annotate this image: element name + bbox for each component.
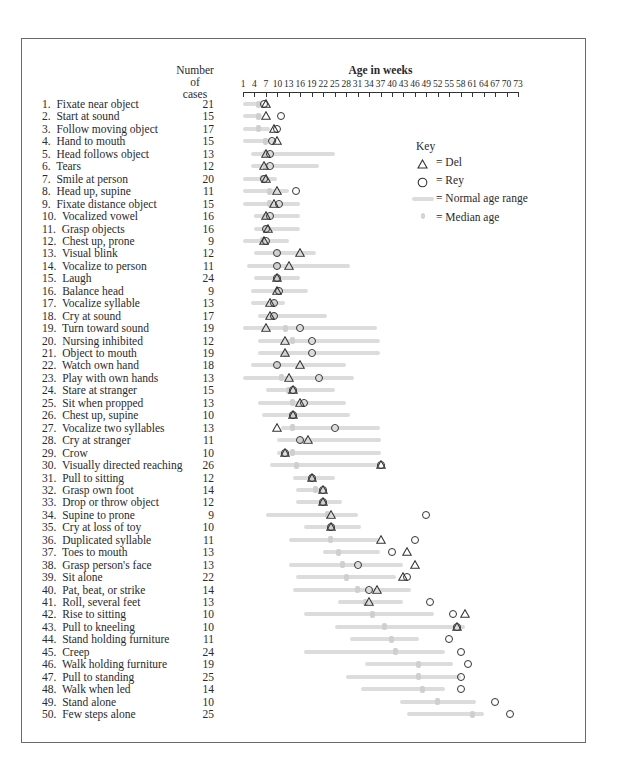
del-triangle-marker: [261, 99, 271, 108]
row-cases: 17: [178, 310, 214, 322]
x-tick: [381, 92, 382, 97]
row-cases: 19: [178, 347, 214, 359]
del-triangle-marker: [410, 560, 420, 569]
x-tick: [484, 92, 485, 97]
median-age-marker: [420, 686, 425, 693]
x-tick: [415, 92, 416, 97]
x-tick: [438, 92, 439, 97]
x-tick-label: 13: [284, 79, 294, 89]
row-cases: 15: [178, 110, 214, 122]
x-tick-label: 40: [387, 79, 397, 89]
x-tick: [277, 92, 278, 97]
del-triangle-marker: [284, 261, 294, 270]
row-label: 30. Visually directed reaching: [42, 459, 183, 471]
row-label: 31. Pull to sitting: [42, 472, 124, 484]
row-label: 4. Hand to mouth: [42, 135, 125, 147]
row-cases: 12: [178, 472, 214, 484]
x-tick: [495, 92, 496, 97]
median-age-marker: [389, 636, 394, 643]
circle-icon: [417, 177, 428, 188]
row-cases: 10: [178, 521, 214, 533]
row-cases: 13: [178, 422, 214, 434]
del-triangle-marker: [402, 547, 412, 556]
row-cases: 11: [178, 633, 214, 645]
row-cases: 25: [178, 671, 214, 683]
x-tick: [335, 92, 336, 97]
row-label: 8. Head up, supine: [42, 185, 131, 197]
x-tick-label: 37: [376, 79, 386, 89]
del-triangle-marker: [295, 398, 305, 407]
row-label: 23. Play with own hands: [42, 372, 158, 384]
x-tick: [392, 92, 393, 97]
del-triangle-marker: [272, 286, 282, 295]
del-triangle-marker: [326, 522, 336, 531]
median-age-marker: [344, 574, 349, 581]
normal-age-range-bar: [350, 637, 419, 641]
row-label: 33. Drop or throw object: [42, 496, 159, 508]
row-cases: 13: [178, 372, 214, 384]
x-tick-label: 22: [318, 79, 328, 89]
median-age-marker: [290, 337, 295, 344]
del-triangle-marker: [318, 485, 328, 494]
del-triangle-marker: [263, 224, 273, 233]
x-tick: [507, 92, 508, 97]
del-triangle-marker: [269, 124, 279, 133]
row-label: 40. Pat, beat, or strike: [42, 584, 145, 596]
normal-age-range-bar: [270, 463, 381, 467]
row-cases: 21: [178, 98, 214, 110]
row-label: 37. Toes to mouth: [42, 546, 128, 558]
x-tick: [312, 92, 313, 97]
median-age-marker: [336, 549, 341, 556]
x-tick-label: 34: [364, 79, 374, 89]
row-label: 38. Grasp person's face: [42, 559, 152, 571]
median-age-marker: [256, 125, 261, 132]
normal-age-range-bar: [335, 625, 465, 629]
row-label: 42. Rise to sitting: [42, 608, 126, 620]
row-cases: 16: [178, 223, 214, 235]
normal-age-range-bar: [304, 650, 445, 654]
row-cases: 11: [178, 185, 214, 197]
x-tick: [289, 92, 290, 97]
row-label: 14. Vocalize to person: [42, 260, 147, 272]
row-label: 15. Laugh: [42, 272, 92, 284]
x-tick: [358, 92, 359, 97]
row-cases: 24: [178, 646, 214, 658]
del-triangle-marker: [280, 348, 290, 357]
x-tick-label: 1: [241, 79, 246, 89]
row-label: 47. Pull to standing: [42, 671, 134, 683]
row-cases: 13: [178, 397, 214, 409]
rey-circle-marker: [411, 536, 419, 544]
row-label: 48. Walk when led: [42, 683, 131, 695]
row-cases: 10: [178, 621, 214, 633]
row-label: 5. Head follows object: [42, 148, 149, 160]
del-triangle-marker: [259, 161, 269, 170]
row-label: 25. Sit when propped: [42, 397, 143, 409]
del-triangle-marker: [272, 136, 282, 145]
normal-age-range-bar: [289, 563, 404, 567]
del-triangle-marker: [295, 248, 305, 257]
normal-age-range-bar: [277, 438, 380, 442]
x-axis-tick-labels: 1471013161922252831343740434649525558616…: [0, 79, 617, 91]
median-age-marker: [290, 424, 295, 431]
rey-circle-marker: [308, 337, 316, 345]
del-triangle-marker: [272, 423, 282, 432]
del-triangle-marker: [259, 236, 269, 245]
x-tick: [323, 92, 324, 97]
median-age-marker: [370, 611, 375, 618]
x-tick-label: 61: [467, 79, 477, 89]
row-label: 27. Vocalize two syllables: [42, 422, 165, 434]
range-bar-icon: [412, 197, 434, 201]
row-label: 34. Supine to prone: [42, 509, 135, 521]
del-triangle-marker: [398, 572, 408, 581]
median-age-marker: [340, 561, 345, 568]
x-tick-label: 43: [399, 79, 409, 89]
normal-age-range-bar: [365, 662, 453, 666]
row-label: 19. Turn toward sound: [42, 322, 149, 334]
row-label: 35. Cry at loss of toy: [42, 521, 141, 533]
row-cases: 16: [178, 210, 214, 222]
row-label: 9. Fixate distance object: [42, 198, 157, 210]
x-tick: [243, 92, 244, 97]
median-age-marker: [355, 586, 360, 593]
legend-range-label: = Normal age range: [436, 192, 528, 204]
del-triangle-marker: [288, 410, 298, 419]
